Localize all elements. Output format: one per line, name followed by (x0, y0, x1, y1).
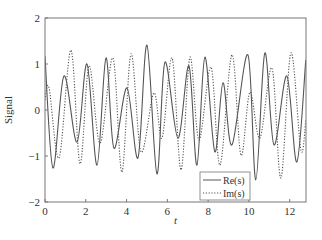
series-im-line (45, 50, 306, 178)
signal-chart: 024681012 −2−1012 t Signal Re(s) Im(s) (0, 0, 322, 240)
plot-area (45, 18, 306, 202)
x-tick-label: 10 (243, 205, 255, 217)
x-axis-label: t (174, 214, 178, 226)
plot-frame (45, 18, 306, 202)
legend-re-label: Re(s) (223, 175, 245, 187)
x-tick-label: 4 (124, 205, 130, 217)
x-tick-label: 12 (284, 205, 295, 217)
y-tick-label: 0 (35, 104, 41, 116)
x-tick-label: 2 (83, 205, 89, 217)
x-tick-label: 8 (205, 205, 211, 217)
series-re-line (45, 45, 306, 180)
legend: Re(s) Im(s) (200, 172, 250, 200)
y-tick-label: 1 (35, 58, 41, 70)
legend-im-label: Im(s) (223, 188, 245, 200)
y-tick-label: −2 (28, 196, 40, 208)
y-tick-label: −1 (28, 150, 40, 162)
x-tick-label: 0 (42, 205, 48, 217)
x-tick-label: 6 (165, 205, 171, 217)
series-layer (45, 45, 306, 180)
y-tick-label: 2 (35, 12, 41, 24)
y-axis-label: Signal (2, 96, 14, 124)
